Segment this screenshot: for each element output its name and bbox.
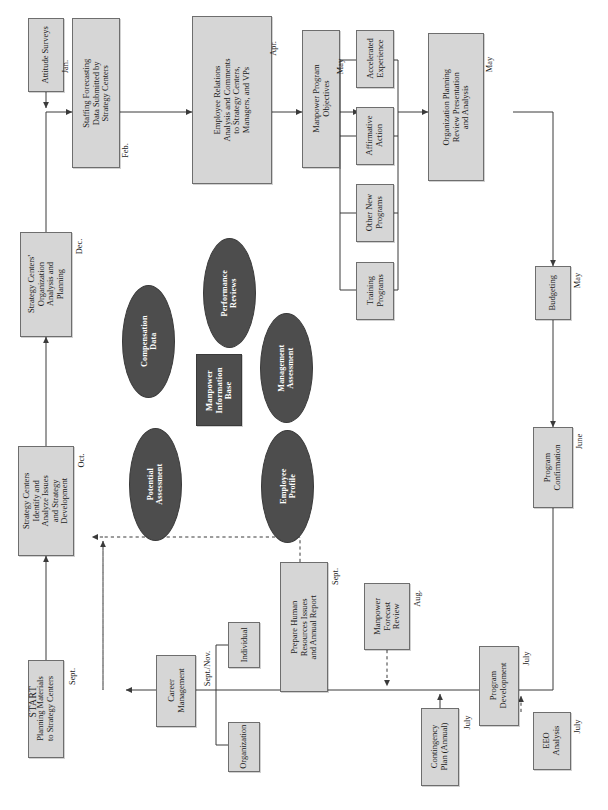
node-program-confirmation[interactable]: Program Confirmation [533,427,573,508]
month-label-july-eeo: July [573,712,582,742]
month-label-july-contingency: July [463,708,472,738]
node-label: Training Programs [365,275,384,308]
month-label-feb: Feb. [121,136,130,166]
node-individual[interactable]: Individual [228,622,260,668]
month-label-sept-planning-materials: Sept. [68,661,77,693]
month-label-sept-nov: Sept./Nov. [203,647,212,691]
month-label-may-objectives: May [336,52,345,82]
node-label: Organization [239,725,249,769]
datastore-performance-reviews[interactable]: Performance Reviews [203,238,256,348]
month-label-july-program-dev: July [522,644,531,674]
node-attitude-surveys[interactable]: Attitude Surveys [28,18,64,92]
month-label-may-org-planning: May [485,50,494,80]
node-organization[interactable]: Organization [228,722,260,772]
node-budgeting[interactable]: Budgeting [535,266,571,320]
node-label: Manpower Information Base [205,367,234,413]
datastore-label: Performance Reviews [220,270,238,317]
datastore-compensation-data[interactable]: Compensation Data [122,285,175,398]
node-prepare-hr-report[interactable]: Prepare Human Resources Issues and Annua… [280,562,328,692]
flowchart-canvas: Attitude Surveys Staffing Forecasting Da… [0,0,608,810]
node-manpower-information-base[interactable]: Manpower Information Base [196,354,242,426]
node-label: Budgeting [548,275,558,310]
start-label: START [27,682,38,722]
node-affirmative-action[interactable]: Affirmative Action [356,107,394,165]
datastore-label: Management Assessment [277,345,295,392]
month-label-apr: Apr. [269,34,278,64]
node-strategy-centers-identify[interactable]: Strategy Centers Identify and Analyze Is… [18,446,74,556]
datastore-management-assessment[interactable]: Management Assessment [260,313,313,423]
node-program-development[interactable]: Program Development [479,646,519,726]
node-label: Individual [239,628,249,663]
node-staffing-forecasting[interactable]: Staffing Forecasting Data Submitted by S… [72,18,120,168]
node-label: Contingency Plan (Annual) [430,723,449,771]
node-label: Attitude Surveys [41,26,51,83]
datastore-label: Compensation Data [139,316,157,368]
node-career-management[interactable]: Career Management [156,655,196,727]
node-label: Staffing Forecasting Data Submitted by S… [82,58,111,127]
month-label-oct: Oct. [77,446,86,476]
node-label: Prepare Human Resources Issues and Annua… [290,595,319,659]
node-label: Career Management [166,669,185,713]
node-label: Manpower Forecast Review [373,598,402,635]
month-label-jan: Jan. [61,52,70,82]
datastore-label: Potential Assessment [146,464,164,505]
node-contingency-plan[interactable]: Contingency Plan (Annual) [421,708,459,786]
node-training-programs[interactable]: Training Programs [356,262,394,320]
datastore-potential-assessment[interactable]: Potential Assessment [129,428,182,541]
node-label: Employee Relations Analysis and Comments… [213,58,251,141]
node-label: Strategy Centers' Organization Analysis … [27,256,65,314]
month-label-aug: Aug. [413,584,422,614]
node-label: Organization Planning Review Presentatio… [442,69,471,146]
node-accelerated-experience[interactable]: Accelerated Experience [356,30,394,88]
node-label: Strategy Centers Identify and Analyze Is… [22,473,70,529]
node-employee-relations[interactable]: Employee Relations Analysis and Comments… [192,16,272,184]
node-other-new-programs[interactable]: Other New Programs [356,184,394,242]
node-label: Planning Materials to Strategy Centers [36,676,55,741]
node-label: Program Confirmation [543,445,562,491]
month-label-sept-hr: Sept. [331,562,340,592]
node-label: Accelerated Experience [365,39,384,80]
node-label: Affirmative Action [365,116,384,156]
datastore-label: Employee Profile [278,469,296,504]
node-eeo-analysis[interactable]: EEO Analysis [533,712,571,770]
node-label: Manpower Program Objectives [311,65,330,133]
node-organization-planning-review[interactable]: Organization Planning Review Presentatio… [428,33,484,181]
node-manpower-forecast-review[interactable]: Manpower Forecast Review [364,583,410,650]
month-label-dec: Dec. [75,232,84,262]
node-label: EEO Analysis [542,726,561,756]
month-label-may-budgeting: May [573,266,582,296]
node-manpower-program-objectives[interactable]: Manpower Program Objectives [302,30,340,168]
node-label: Program Development [489,663,508,709]
node-label: Other New Programs [365,194,384,232]
month-label-june: June [575,427,584,457]
node-strategy-centers-org-analysis[interactable]: Strategy Centers' Organization Analysis … [20,232,72,337]
datastore-employee-profile[interactable]: Employee Profile [261,430,314,543]
